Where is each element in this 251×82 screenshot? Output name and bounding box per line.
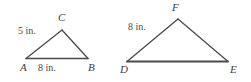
side-ac-length-label: 5 in. [18, 26, 36, 36]
side-ab-length-label: 8 in. [38, 63, 56, 73]
vertex-label-f: F [172, 2, 179, 13]
vertex-label-e: E [230, 64, 237, 75]
vertex-label-d: D [120, 64, 128, 75]
side-df-length-label: 8 in. [128, 22, 146, 32]
vertex-label-b: B [88, 62, 95, 73]
vertex-label-c: C [58, 12, 65, 23]
vertex-label-a: A [20, 62, 27, 73]
segment-fe [178, 19, 228, 62]
segment-cb [62, 30, 88, 59]
geometry-figure: A B C 5 in. 8 in. D E F 8 in. [0, 0, 251, 82]
